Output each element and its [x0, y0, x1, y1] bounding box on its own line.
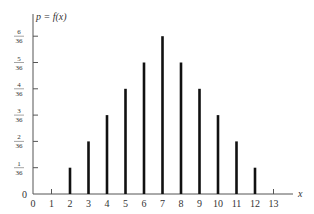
y-axis-label: p = f(x): [35, 11, 67, 23]
x-tick-label: 12: [250, 198, 260, 209]
x-tick-label: 13: [269, 198, 279, 209]
x-tick-label: 8: [179, 198, 184, 209]
x-tick-label: 10: [213, 198, 223, 209]
y-tick-numerator: 6: [17, 28, 21, 36]
y-tick-numerator: 4: [17, 81, 21, 89]
y-tick-denominator: 36: [16, 142, 24, 150]
x-tick-label: 4: [105, 198, 110, 209]
x-ticks: 012345678910111213: [31, 189, 279, 209]
x-tick-label: 7: [160, 198, 165, 209]
y-tick-denominator: 36: [16, 64, 24, 72]
x-tick-label: 11: [232, 198, 242, 209]
y-tick-numerator: 1: [17, 160, 21, 168]
x-tick-label: 2: [68, 198, 73, 209]
y-tick-denominator: 36: [16, 169, 24, 177]
y-tick-numerator: 2: [17, 133, 21, 141]
y-zero-label: 0: [22, 189, 27, 200]
y-tick-denominator: 36: [16, 116, 24, 124]
y-ticks: 136236336436536636: [14, 28, 38, 177]
x-tick-label: 0: [31, 198, 36, 209]
probability-distribution-chart: 136236336436536636 012345678910111213 p …: [0, 0, 314, 214]
y-tick-numerator: 5: [17, 55, 21, 63]
y-tick-numerator: 3: [17, 107, 21, 115]
y-tick-denominator: 36: [16, 90, 24, 98]
x-tick-label: 1: [49, 198, 54, 209]
bars: [70, 36, 255, 194]
x-tick-label: 6: [142, 198, 147, 209]
x-tick-label: 3: [86, 198, 91, 209]
y-tick-denominator: 36: [16, 37, 24, 45]
x-axis-label: x: [297, 188, 303, 199]
x-tick-label: 5: [123, 198, 128, 209]
x-tick-label: 9: [197, 198, 202, 209]
